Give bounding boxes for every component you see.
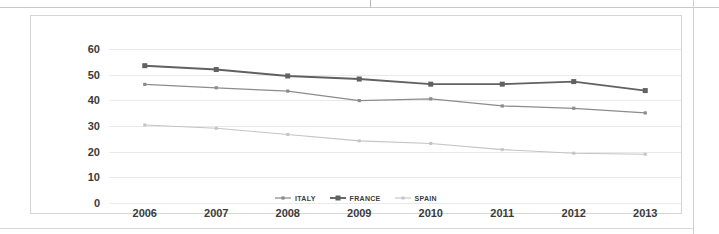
y-axis-tick-label: 20	[88, 146, 100, 158]
data-point-marker	[572, 152, 575, 155]
page-edge-right	[693, 0, 694, 234]
legend-swatch-icon	[395, 194, 411, 202]
legend-item-italy[interactable]: ITALY	[275, 194, 316, 202]
data-point-marker	[501, 104, 504, 107]
series-italy	[143, 83, 647, 115]
legend-item-france[interactable]: FRANCE	[330, 194, 381, 202]
x-axis-tick-label: 2012	[562, 207, 586, 219]
data-point-marker	[143, 83, 146, 86]
line-series-group	[109, 49, 681, 203]
x-axis-tick-label: 2006	[133, 207, 157, 219]
data-point-marker	[572, 107, 575, 110]
page-edge-bottom	[0, 228, 693, 229]
chart-panel: 0102030405060 20062007200820092010201120…	[30, 15, 682, 214]
y-axis-tick-label: 40	[88, 94, 100, 106]
plot-area: 0102030405060 20062007200820092010201120…	[109, 49, 681, 203]
x-axis-tick-label: 2007	[204, 207, 228, 219]
chart-legend: ITALYFRANCESPAIN	[31, 194, 681, 202]
data-point-marker	[501, 148, 504, 151]
legend-label: SPAIN	[415, 195, 437, 202]
data-point-marker	[215, 86, 218, 89]
data-point-marker	[358, 99, 361, 102]
y-axis-tick-label: 10	[88, 171, 100, 183]
gridline	[109, 203, 681, 204]
legend-swatch-icon	[275, 194, 291, 202]
legend-label: FRANCE	[350, 195, 381, 202]
data-point-marker	[643, 88, 648, 93]
x-axis-tick-label: 2009	[347, 207, 371, 219]
legend-swatch-icon	[330, 194, 346, 202]
data-point-marker	[429, 97, 432, 100]
legend-item-spain[interactable]: SPAIN	[395, 194, 437, 202]
data-point-marker	[500, 82, 505, 87]
x-axis-tick-label: 2013	[633, 207, 657, 219]
data-point-marker	[142, 63, 147, 68]
series-line	[145, 125, 646, 154]
data-point-marker	[571, 79, 576, 84]
y-axis-tick-label: 60	[88, 43, 100, 55]
data-point-marker	[143, 123, 146, 126]
data-point-marker	[214, 67, 219, 72]
data-point-marker	[644, 111, 647, 114]
series-spain	[143, 123, 647, 155]
data-point-marker	[644, 153, 647, 156]
data-point-marker	[285, 73, 290, 78]
series-france	[142, 63, 648, 93]
series-line	[145, 84, 646, 112]
page-edge-vertical	[370, 0, 371, 8]
screenshot-root: 0102030405060 20062007200820092010201120…	[0, 0, 719, 234]
x-axis-tick-label: 2011	[490, 207, 514, 219]
y-axis-tick-label: 50	[88, 69, 100, 81]
data-point-marker	[215, 127, 218, 130]
x-axis-tick-label: 2008	[276, 207, 300, 219]
data-point-marker	[286, 133, 289, 136]
x-axis-tick-label: 2010	[419, 207, 443, 219]
data-point-marker	[429, 142, 432, 145]
series-line	[145, 66, 646, 91]
page-edge-top	[0, 7, 719, 8]
y-axis-tick-label: 30	[88, 120, 100, 132]
data-point-marker	[357, 77, 362, 82]
data-point-marker	[428, 82, 433, 87]
data-point-marker	[358, 139, 361, 142]
legend-label: ITALY	[295, 195, 316, 202]
data-point-marker	[286, 89, 289, 92]
